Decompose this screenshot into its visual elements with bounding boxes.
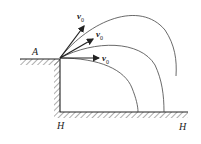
label-point-a: A bbox=[32, 47, 38, 57]
trajectory-horizontal bbox=[60, 58, 138, 112]
velocity-label-steep: v0 bbox=[77, 12, 84, 23]
trajectory-medium bbox=[60, 45, 164, 112]
velocity-arrow-steep bbox=[60, 26, 84, 58]
cliff-wall-hatch bbox=[54, 59, 60, 112]
velocity-label-medium: v0 bbox=[96, 30, 103, 41]
velocity-subscript: 0 bbox=[81, 17, 84, 23]
ground-hatch bbox=[54, 112, 188, 118]
diagram-canvas bbox=[0, 0, 201, 144]
velocity-arrow-medium bbox=[60, 39, 93, 58]
velocity-subscript: 0 bbox=[100, 35, 103, 41]
velocity-subscript: 0 bbox=[106, 59, 109, 65]
cliff-outline bbox=[20, 59, 188, 112]
label-h-right: H bbox=[179, 122, 186, 132]
label-h-left: H bbox=[57, 121, 64, 131]
projectile-diagram: A H H v0 v0 v0 bbox=[0, 0, 201, 144]
velocity-label-horizontal: v0 bbox=[102, 54, 109, 65]
